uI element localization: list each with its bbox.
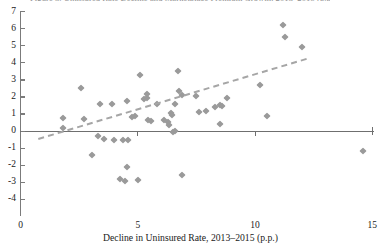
data-point xyxy=(179,172,186,179)
y-tick xyxy=(21,79,25,80)
data-point xyxy=(124,163,131,170)
data-point xyxy=(88,151,95,158)
data-point xyxy=(298,44,305,51)
data-point xyxy=(174,68,181,75)
y-tick-label: 0 xyxy=(0,126,16,136)
y-tick xyxy=(21,11,25,12)
data-point xyxy=(121,178,128,185)
data-point xyxy=(108,100,115,107)
y-tick xyxy=(21,199,25,200)
x-axis-right-cap xyxy=(372,127,373,135)
data-point xyxy=(111,136,118,143)
y-tick-label: -3 xyxy=(0,177,16,187)
data-point xyxy=(80,116,87,123)
y-tick-label: 1 xyxy=(0,109,16,119)
data-point xyxy=(280,22,287,29)
data-point xyxy=(193,93,200,100)
y-tick xyxy=(21,28,25,29)
y-tick-label: 3 xyxy=(0,75,16,85)
data-point xyxy=(202,108,209,115)
x-tick xyxy=(137,131,138,136)
y-tick xyxy=(21,96,25,97)
x-tick-label: 10 xyxy=(250,220,260,230)
y-tick xyxy=(21,165,25,166)
y-tick xyxy=(21,62,25,63)
data-point xyxy=(223,94,230,101)
data-point xyxy=(137,71,144,78)
x-axis-title: Decline in Uninsured Rate, 2013–2015 (p.… xyxy=(0,232,381,243)
y-tick xyxy=(21,131,25,132)
y-tick-label: -2 xyxy=(0,160,16,170)
x-tick-label: 5 xyxy=(135,220,140,230)
data-point xyxy=(59,115,66,122)
y-tick xyxy=(21,45,25,46)
data-point xyxy=(195,109,202,116)
y-tick-label: 2 xyxy=(0,92,16,102)
plot-area: -4-3-2-101234567 051015 xyxy=(0,0,381,248)
scatter-chart: Figure 3. Uninsured Rate Decline and Mar… xyxy=(0,0,381,248)
data-point xyxy=(263,112,270,119)
y-tick-label: 7 xyxy=(0,7,16,17)
y-tick-label: 4 xyxy=(0,58,16,68)
data-point xyxy=(216,121,223,128)
y-tick xyxy=(21,113,25,114)
data-point xyxy=(97,100,104,107)
data-point xyxy=(282,34,289,41)
y-tick xyxy=(21,182,25,183)
x-tick-label: 0 xyxy=(18,220,23,230)
x-tick xyxy=(255,131,256,136)
data-point xyxy=(78,85,85,92)
data-point xyxy=(125,136,132,143)
data-point xyxy=(134,176,141,183)
y-tick-label: -1 xyxy=(0,143,16,153)
x-tick-label: 15 xyxy=(368,220,378,230)
y-tick-label: 5 xyxy=(0,41,16,51)
data-point xyxy=(166,121,173,128)
x-axis-zero-line xyxy=(20,131,374,132)
data-point xyxy=(124,98,131,105)
y-tick-label: -4 xyxy=(0,194,16,204)
data-point xyxy=(359,148,366,155)
y-tick xyxy=(21,148,25,149)
data-point xyxy=(172,100,179,107)
data-point xyxy=(256,81,263,88)
data-point xyxy=(132,112,139,119)
y-tick-label: 6 xyxy=(0,24,16,34)
